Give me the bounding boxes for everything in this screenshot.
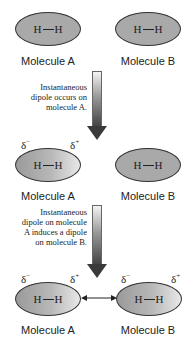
bond-line xyxy=(143,165,154,166)
note-line: dipole occurs on xyxy=(5,92,87,102)
bond-line xyxy=(143,29,154,30)
bond-line xyxy=(43,299,54,300)
down-arrow-head-2 xyxy=(87,264,107,278)
atom-h: H xyxy=(34,23,42,35)
delta-minus-a: δ− xyxy=(21,138,30,151)
down-arrow-shaft-2 xyxy=(92,205,102,265)
h2-bond: HH xyxy=(135,293,164,305)
down-arrow-shaft-1 xyxy=(92,71,102,127)
atom-h: H xyxy=(34,159,42,171)
down-arrow-head-1 xyxy=(87,126,107,140)
h2-bond: HH xyxy=(134,23,163,35)
atom-h: H xyxy=(134,159,142,171)
molecule-b-label: Molecule B xyxy=(108,324,188,336)
h2-bond: HH xyxy=(34,159,63,171)
h2-bond: HH xyxy=(134,159,163,171)
delta-plus-a: δ+ xyxy=(70,272,79,285)
atom-h: H xyxy=(134,23,142,35)
note-line: Instantaneous xyxy=(5,207,87,217)
h2-bond: HH xyxy=(34,23,63,35)
bond-line xyxy=(43,165,54,166)
bond-line xyxy=(144,299,155,300)
molecule-b-stage3: HH xyxy=(116,282,182,316)
molecule-b-stage1: HH xyxy=(115,12,181,46)
molecule-a-label: Molecule A xyxy=(8,324,88,336)
delta-minus-a: δ− xyxy=(21,272,30,285)
atom-h: H xyxy=(34,293,42,305)
molecule-a-stage2: HH xyxy=(15,148,81,182)
delta-plus-a: δ+ xyxy=(70,138,79,151)
note-line: on molecule B. xyxy=(5,237,87,247)
atom-h: H xyxy=(55,23,63,35)
molecule-b-label: Molecule B xyxy=(108,190,188,202)
atom-h: H xyxy=(55,293,63,305)
delta-minus-b: δ− xyxy=(121,272,130,285)
molecule-a-stage3: HH xyxy=(15,282,81,316)
atom-h: H xyxy=(155,159,163,171)
note-line: Instantaneous xyxy=(5,82,87,92)
molecule-b-label: Molecule B xyxy=(108,55,188,67)
molecule-a-label: Molecule A xyxy=(8,190,88,202)
note-line: dipole on molecule xyxy=(5,217,87,227)
transition-note-1: Instantaneous dipole occurs on molecule … xyxy=(5,82,87,112)
atom-h: H xyxy=(55,159,63,171)
note-line: A induces a dipole xyxy=(5,227,87,237)
atom-h: H xyxy=(135,293,143,305)
double-headed-arrow-icon xyxy=(81,291,117,305)
atom-h: H xyxy=(155,23,163,35)
delta-plus-b: δ+ xyxy=(171,272,180,285)
molecule-a-stage1: HH xyxy=(15,12,81,46)
molecule-a-label: Molecule A xyxy=(8,55,88,67)
molecule-b-stage2: HH xyxy=(115,148,181,182)
atom-h: H xyxy=(156,293,164,305)
h2-bond: HH xyxy=(34,293,63,305)
note-line: molecule A. xyxy=(5,102,87,112)
transition-note-2: Instantaneous dipole on molecule A induc… xyxy=(5,207,87,247)
bond-line xyxy=(43,29,54,30)
